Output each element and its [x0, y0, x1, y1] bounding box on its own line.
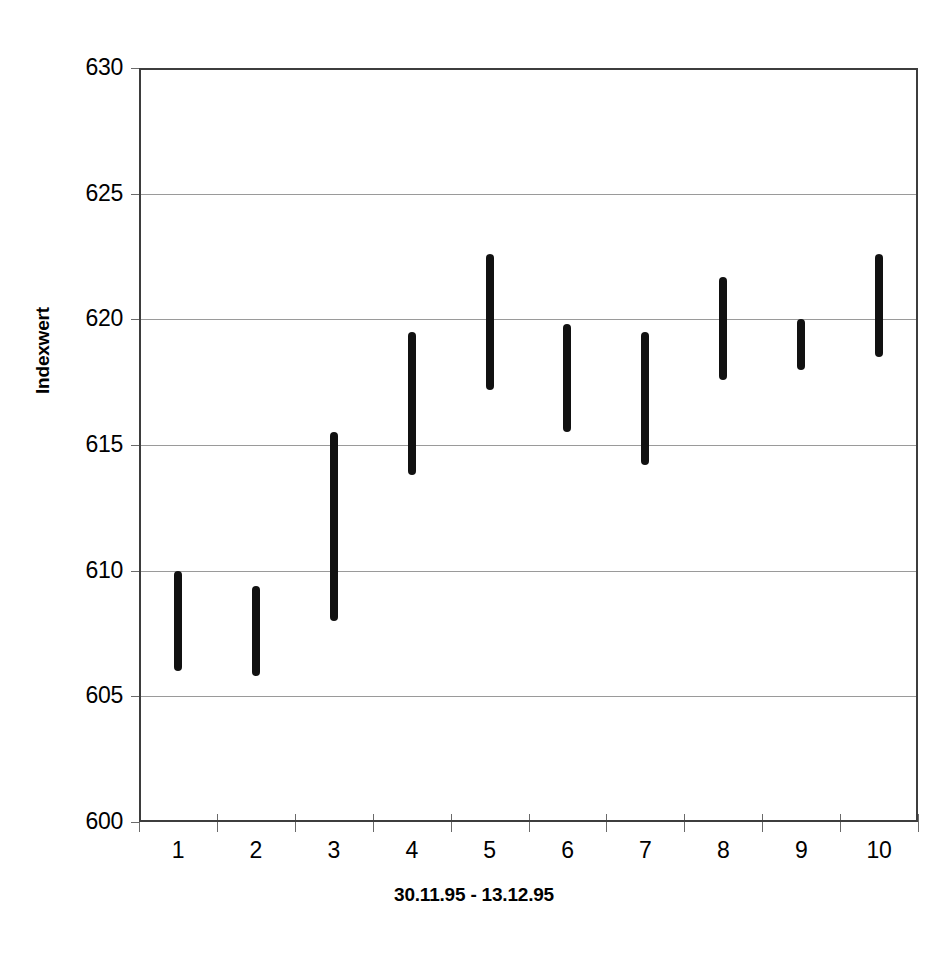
y-axis-tick-label: 625: [53, 182, 123, 205]
y-axis-tick: [131, 445, 139, 446]
y-axis-tick-label: 610: [53, 559, 123, 582]
y-axis-title: Indexwert: [32, 307, 54, 394]
y-axis-tick-label: 620: [53, 307, 123, 330]
high-low-bar: [563, 324, 571, 432]
y-axis-tick: [131, 194, 139, 195]
high-low-bar: [330, 432, 338, 621]
x-axis-tick-label: 5: [460, 838, 520, 863]
y-axis-tick: [131, 822, 139, 823]
gridline: [139, 445, 918, 446]
high-low-bar: [797, 319, 805, 369]
x-axis-tick: [762, 814, 763, 832]
high-low-bar: [641, 332, 649, 465]
gridline: [139, 194, 918, 195]
y-axis-tick: [131, 319, 139, 320]
high-low-bar: [875, 254, 883, 357]
x-axis-title: 30.11.95 - 13.12.95: [0, 884, 948, 906]
x-axis-tick-label: 2: [226, 838, 286, 863]
x-axis-tick: [529, 814, 530, 832]
x-axis-tick: [373, 814, 374, 832]
plot-frame-top: [139, 68, 918, 70]
x-axis-tick: [918, 814, 919, 832]
y-axis-tick: [131, 696, 139, 697]
x-axis-tick-label: 6: [537, 838, 597, 863]
x-axis-tick: [684, 814, 685, 832]
high-low-bar: [719, 277, 727, 380]
x-axis-tick-label: 8: [693, 838, 753, 863]
y-axis-tick: [131, 571, 139, 572]
x-axis-tick: [451, 814, 452, 832]
gridline: [139, 696, 918, 697]
y-axis-tick-label: 600: [53, 810, 123, 833]
plot-frame-bottom: [139, 820, 918, 822]
y-axis-tick-label: 605: [53, 684, 123, 707]
x-axis-tick-label: 3: [304, 838, 364, 863]
high-low-bar: [252, 586, 260, 676]
high-low-bar: [486, 254, 494, 390]
gridline: [139, 571, 918, 572]
high-low-bar: [408, 332, 416, 475]
x-axis-tick-label: 10: [849, 838, 909, 863]
x-axis-tick: [840, 814, 841, 832]
x-axis-tick: [295, 814, 296, 832]
y-axis-tick-label: 615: [53, 433, 123, 456]
x-axis-tick-label: 4: [382, 838, 442, 863]
y-axis-tick-label: 630: [53, 56, 123, 79]
x-axis-tick: [217, 814, 218, 832]
plot-area: [139, 68, 918, 822]
high-low-bar: [174, 571, 182, 672]
x-axis-tick-label: 1: [148, 838, 208, 863]
chart-container: Indexwert 630625620615610605600 12345678…: [0, 0, 948, 959]
x-axis-tick-label: 9: [771, 838, 831, 863]
plot-frame-right: [916, 68, 918, 822]
plot-frame-left: [139, 68, 141, 822]
x-axis-tick: [606, 814, 607, 832]
x-axis-tick-label: 7: [615, 838, 675, 863]
y-axis-tick: [131, 68, 139, 69]
